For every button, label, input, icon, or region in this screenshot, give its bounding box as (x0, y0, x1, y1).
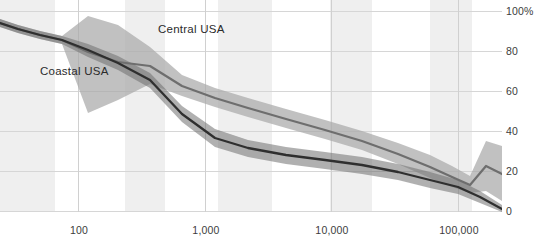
y-tick-80: 80 (506, 46, 518, 57)
x-tick-1000: 1,000 (192, 225, 219, 236)
y-tick-20: 20 (506, 166, 518, 177)
y-axis-labels: 100% 80 60 40 20 0 (506, 0, 546, 212)
y-tick-100: 100% (506, 6, 534, 17)
chart-svg (0, 0, 502, 212)
x-tick-100000: 100,000 (439, 225, 478, 236)
x-tick-100: 100 (70, 225, 88, 236)
y-tick-0: 0 (506, 206, 512, 217)
series-label-coastal-usa: Coastal USA (40, 66, 109, 78)
chart-container: Central USA Coastal USA 100% 80 60 40 20… (0, 0, 546, 238)
plot-area: Central USA Coastal USA (0, 0, 502, 212)
x-axis-labels: 100 1,000 10,000 100,000 (0, 212, 502, 238)
y-tick-40: 40 (506, 126, 518, 137)
series-label-central-usa: Central USA (158, 24, 225, 36)
y-tick-60: 60 (506, 86, 518, 97)
x-tick-10000: 10,000 (315, 225, 348, 236)
